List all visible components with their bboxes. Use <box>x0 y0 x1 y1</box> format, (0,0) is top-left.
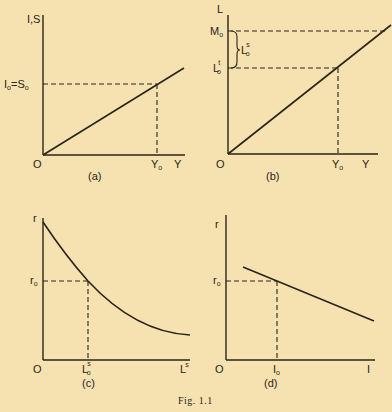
mo-label: Mo <box>210 25 223 38</box>
saving-function-line <box>43 68 184 155</box>
y-axis-label: r <box>33 212 37 224</box>
x-axis-label: I <box>367 363 370 375</box>
y-axis-label: I,S <box>27 13 40 25</box>
panel-label: (b) <box>266 170 279 182</box>
origin-label: O <box>216 158 225 170</box>
y-axis-label: L <box>217 3 223 15</box>
transactions-demand-line <box>228 25 391 154</box>
ro-label: ro <box>213 274 221 287</box>
panel-d: r ro O Io I (d) <box>213 215 375 389</box>
y-axis-label: r <box>215 218 219 230</box>
speculative-demand-curve <box>43 222 190 335</box>
origin-label: O <box>33 158 42 170</box>
panel-label: (d) <box>264 377 277 389</box>
yo-label: Yo <box>332 158 343 171</box>
ro-label: ro <box>30 274 38 287</box>
los-label: Lso <box>241 41 250 57</box>
panel-a: I,S O Io=So Yo Y (a) <box>4 13 185 182</box>
origin-label: O <box>215 363 224 375</box>
panel-c: r ro O Lso Ls (c) <box>30 212 190 389</box>
panel-label: (a) <box>88 170 101 182</box>
los-label: Lso <box>82 360 91 376</box>
investment-demand-line <box>243 267 374 321</box>
x-axis-label: Y <box>174 158 182 170</box>
panel-label: (c) <box>82 377 95 389</box>
brace-icon <box>231 31 240 68</box>
io-label: Io <box>273 363 280 376</box>
figure-caption: Fig. 1.1 <box>178 395 213 406</box>
lot-label: Lto <box>213 59 221 75</box>
io-so-label: Io=So <box>4 78 29 91</box>
yo-label: Yo <box>151 158 162 171</box>
x-axis-label: Y <box>362 158 370 170</box>
figure-1-1: I,S O Io=So Yo Y (a) L Mo Lto Lso O Yo Y… <box>0 0 392 412</box>
panel-b: L Mo Lto Lso O Yo Y (b) <box>210 3 391 182</box>
origin-label: O <box>33 363 42 375</box>
x-axis-label: Ls <box>180 361 189 375</box>
